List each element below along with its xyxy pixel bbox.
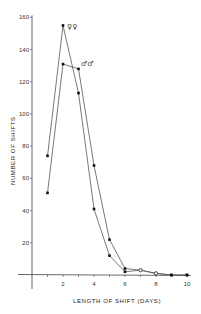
x-tick-label: 10 [184, 281, 191, 287]
y-axis-title: NUMBER OF SHIFTS [10, 116, 16, 185]
data-point-open [154, 272, 157, 275]
data-point [93, 208, 96, 211]
series-lines [46, 24, 188, 276]
series-line-male [48, 64, 188, 275]
y-tick-label: 100 [19, 111, 30, 117]
y-tick-label: 120 [19, 79, 30, 85]
y-tick-label: 160 [19, 14, 30, 20]
axes: 20406080100120140160246810 [18, 14, 191, 289]
data-point-open [139, 269, 142, 272]
data-point [186, 274, 189, 277]
series-label-male: ♂♂ [81, 60, 94, 68]
x-tick-label: 2 [61, 281, 65, 287]
series-label-female: ♀♀ [67, 23, 77, 31]
data-point [124, 270, 127, 273]
data-point [170, 274, 173, 277]
x-axis-title: LENGTH OF SHIFT (DAYS) [73, 298, 161, 304]
data-point [46, 155, 49, 158]
y-tick-label: 60 [22, 175, 29, 181]
x-tick-label: 8 [154, 281, 158, 287]
y-tick-label: 40 [22, 208, 29, 214]
y-tick-label: 80 [22, 143, 29, 149]
series-line-female [48, 25, 188, 275]
x-tick-label: 4 [92, 281, 96, 287]
x-tick-label: 6 [123, 281, 127, 287]
data-point [93, 164, 96, 167]
data-point [108, 254, 111, 257]
data-point [46, 192, 49, 195]
y-tick-label: 20 [22, 240, 29, 246]
data-point [124, 267, 127, 270]
data-point [62, 24, 65, 27]
y-tick-label: 140 [19, 47, 30, 53]
line-chart: 20406080100120140160246810 NUMBER OF SHI… [0, 0, 201, 314]
data-point [62, 63, 65, 66]
data-point [77, 92, 80, 95]
data-point [108, 238, 111, 241]
data-point [77, 68, 80, 71]
